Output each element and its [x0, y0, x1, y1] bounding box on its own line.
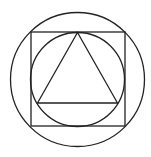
- nested-shapes-diagram: [0, 0, 151, 157]
- inner-circle: [31, 33, 125, 127]
- triangle: [38, 33, 118, 104]
